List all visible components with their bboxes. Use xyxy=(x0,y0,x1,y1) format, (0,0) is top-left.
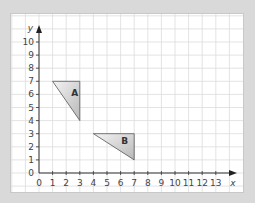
grid-lines xyxy=(11,14,243,192)
x-tick-label: 8 xyxy=(145,178,151,188)
y-tick-label: 10 xyxy=(23,37,35,47)
x-tick-label: 11 xyxy=(183,178,194,188)
x-tick-label: 10 xyxy=(169,178,181,188)
y-tick-label: 8 xyxy=(28,63,34,73)
x-tick-label: 4 xyxy=(91,178,97,188)
x-tick-label: 13 xyxy=(210,178,221,188)
shape-label-a: A xyxy=(71,88,78,98)
x-tick-label: 7 xyxy=(131,178,137,188)
y-tick-label: 5 xyxy=(28,103,34,113)
x-axis-arrow-icon xyxy=(229,170,237,176)
y-tick-label: 4 xyxy=(28,116,34,126)
y-axis-label: y xyxy=(27,23,34,33)
x-tick-label: 3 xyxy=(77,178,83,188)
y-tick-label: 9 xyxy=(28,50,34,60)
y-tick-label: 2 xyxy=(28,142,34,152)
coordinate-grid: AB 012345678910111213012345678910xy xyxy=(0,0,255,203)
x-tick-label: 9 xyxy=(159,178,165,188)
y-tick-label: 7 xyxy=(28,76,34,86)
x-tick-label: 2 xyxy=(63,178,69,188)
x-tick-label: 6 xyxy=(118,178,124,188)
x-tick-label: 5 xyxy=(104,178,110,188)
x-tick-label: 0 xyxy=(36,178,42,188)
x-tick-label: 1 xyxy=(50,178,56,188)
x-axis-label: x xyxy=(229,178,236,188)
y-tick-label: 0 xyxy=(28,168,34,178)
x-tick-label: 12 xyxy=(196,178,207,188)
tick-labels: 012345678910111213012345678910xy xyxy=(23,23,237,188)
y-tick-label: 1 xyxy=(28,155,34,165)
y-tick-label: 6 xyxy=(28,89,34,99)
y-tick-label: 3 xyxy=(28,129,34,139)
shape-label-b: B xyxy=(121,136,128,146)
